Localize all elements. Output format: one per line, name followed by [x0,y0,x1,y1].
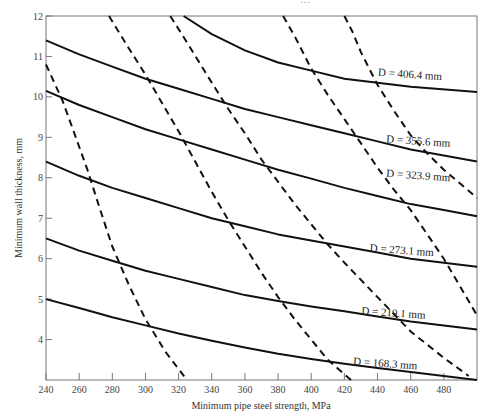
y-tick-label: 12 [33,11,43,22]
curve-label: D = 323.9 mm [386,167,451,183]
x-tick-label: 340 [204,384,219,395]
y-tick-label: 10 [33,91,43,102]
x-axis: 240260280300320340360380400420440460480 [39,373,452,395]
x-tick-label: 280 [105,384,120,395]
x-tick-label: 300 [138,384,153,395]
curve-label: D = 168.3 mm [353,355,418,371]
y-tick-label: 9 [38,132,43,143]
y-tick-label: 11 [33,51,43,62]
y-tick-label: 6 [38,253,43,264]
y-tick-label: 5 [38,294,43,305]
dashed-curve [46,65,187,381]
x-tick-label: 360 [237,384,252,395]
pipe-diameter-curve [46,91,477,216]
chart: 240260280300320340360380400420440460480 … [0,0,489,420]
y-axis: 456789101112 [33,11,52,346]
dashed-curve [283,16,477,315]
y-axis-label: Minimum wall thickness, mm [13,138,24,258]
x-tick-label: 320 [171,384,186,395]
x-tick-label: 480 [436,384,451,395]
y-tick-label: 8 [38,172,43,183]
y-tick-label: 7 [38,213,43,224]
y-tick-label: 4 [38,334,43,345]
x-tick-label: 380 [271,384,286,395]
curve-label: D = 406.4 mm [378,66,443,82]
x-tick-label: 440 [370,384,385,395]
x-axis-label: Minimum pipe steel strength, MPa [191,400,331,411]
x-tick-label: 400 [304,384,319,395]
x-tick-label: 460 [403,384,418,395]
x-tick-label: 260 [72,384,87,395]
x-tick-label: 420 [337,384,352,395]
curve-label: D = 219.1 mm [361,304,426,320]
curve-labels: D = 406.4 mmD = 355.6 mmD = 323.9 mmD = … [353,66,452,372]
curve-label: D = 273.1 mm [369,242,434,258]
x-tick-label: 240 [39,384,54,395]
